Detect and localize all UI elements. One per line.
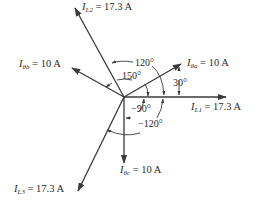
label-IL1-subscript: L1 — [195, 106, 202, 114]
angle-150-arc — [145, 84, 148, 96]
label-IL2: IL2 = 17.3 A — [82, 1, 132, 16]
label-IL3-subscript: L3 — [18, 188, 25, 196]
label-Ithetaa-equals: = — [200, 57, 206, 68]
label-Ithetac-equals: = — [133, 164, 139, 175]
label-IL2-subscript: L2 — [86, 6, 93, 14]
label-IL3: IL3 = 17.3 A — [14, 183, 64, 198]
label-Ithetac-subscript: θc — [124, 169, 131, 177]
angle-120-arc — [152, 66, 164, 95]
label-Ithetab-equals: = — [32, 58, 38, 69]
label-Ithetaa-subscript: θa — [191, 62, 198, 70]
label-Ithetab-value: 10 A — [41, 58, 61, 69]
label-Ithetab: Iθb = 10 A — [19, 58, 61, 73]
angle-label-120: 120° — [135, 57, 154, 68]
label-Ithetac-value: 10 A — [141, 164, 161, 175]
angle-label-150: 150° — [122, 70, 141, 81]
phasor-IL3-arrow — [78, 97, 124, 191]
label-Ithetab-subscript: θb — [23, 63, 30, 71]
label-Ithetaa-value: 10 A — [209, 57, 229, 68]
label-IL1-value: 17.3 A — [213, 101, 241, 112]
label-IL3-equals: = — [28, 183, 34, 194]
angle-label-30: 30° — [173, 77, 187, 88]
label-IL1-equals: = — [205, 101, 211, 112]
angle-minus120-arc — [157, 99, 163, 118]
label-IL2-value: 17.3 A — [104, 1, 132, 12]
label-IL2-equals: = — [96, 1, 102, 12]
label-Ithetac: Iθc = 10 A — [120, 164, 161, 179]
angle-label-minus90: −90° — [131, 103, 151, 114]
label-IL3-value: 17.3 A — [36, 183, 64, 194]
angle-120-arc-2 — [112, 61, 133, 63]
label-Ithetaa: Iθa = 10 A — [187, 57, 229, 72]
label-IL1: IL1 = 17.3 A — [191, 101, 241, 116]
angle-150-arc-end — [106, 83, 112, 87]
angle-label-minus120: −120° — [138, 118, 163, 129]
